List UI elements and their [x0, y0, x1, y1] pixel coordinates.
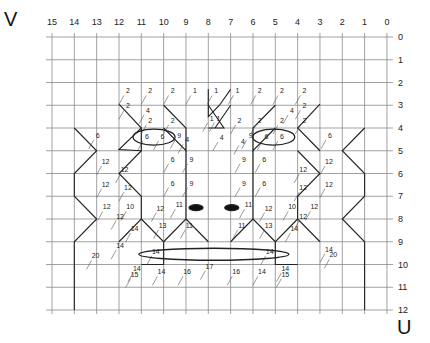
value-label: 6 [171, 156, 175, 163]
row-label: 7 [398, 191, 403, 201]
value-label: 12 [102, 181, 110, 188]
value-label: 2 [258, 117, 262, 124]
column-label: 7 [228, 17, 233, 27]
value-label: 9 [242, 180, 246, 187]
value-label: 9 [177, 132, 181, 139]
value-label: 12 [310, 203, 318, 210]
column-label: 5 [273, 17, 278, 27]
value-label: 12 [299, 166, 307, 173]
column-label: 14 [69, 17, 79, 27]
value-label: 9 [190, 156, 194, 163]
row-label: 4 [398, 123, 403, 133]
value-label: 6 [328, 132, 332, 139]
value-label: 17 [206, 263, 214, 270]
value-label: 1 [235, 87, 239, 94]
column-label: 4 [295, 17, 300, 27]
value-label: 12 [102, 158, 110, 165]
value-label: 12 [116, 213, 124, 220]
column-label: 9 [183, 17, 188, 27]
left-eye-ellipse [133, 129, 175, 145]
value-label: 20 [92, 252, 100, 259]
value-label: 14 [266, 248, 274, 255]
value-label: 2 [280, 87, 284, 94]
row-label: 3 [398, 100, 403, 110]
value-label: 2 [148, 117, 152, 124]
value-label: 1 [210, 115, 214, 122]
left-pupil [189, 205, 203, 211]
value-label: 10 [126, 203, 134, 210]
row-label: 9 [398, 237, 403, 247]
value-label: 14 [131, 225, 139, 232]
value-label: 12 [121, 166, 129, 173]
value-label: 6 [161, 133, 165, 140]
value-label: 2 [302, 117, 306, 124]
row-label: 8 [398, 214, 403, 224]
value-label: 2 [258, 87, 262, 94]
value-label: 4 [185, 136, 189, 143]
row-labels: 0123456789101112 [398, 32, 408, 315]
value-label: 12 [325, 181, 333, 188]
row-label: 0 [398, 32, 403, 42]
value-label: 9 [190, 180, 194, 187]
column-label: 2 [340, 17, 345, 27]
value-label: 11 [176, 201, 183, 208]
value-label: 6 [145, 133, 149, 140]
face-grid-diagram: 1514131211109876543210 0123456789101112 … [0, 0, 430, 343]
row-label: 1 [398, 55, 403, 65]
value-label: 13 [159, 222, 167, 229]
column-label: 10 [159, 17, 169, 27]
value-label: 10 [288, 203, 296, 210]
value-label: 14 [116, 242, 124, 249]
value-label: 12 [325, 158, 333, 165]
column-label: 6 [250, 17, 255, 27]
row-label: 12 [398, 305, 408, 315]
value-label: 2 [238, 117, 242, 124]
value-label: 12 [124, 184, 132, 191]
value-label: 12 [265, 205, 273, 212]
value-label: 2 [148, 87, 152, 94]
column-label: 13 [92, 17, 102, 27]
value-label: 14 [158, 268, 166, 275]
value-label: 11 [245, 201, 252, 208]
value-label: 2 [126, 87, 130, 94]
value-label: 9 [242, 156, 246, 163]
row-label: 6 [398, 169, 403, 179]
value-label: 4 [290, 107, 294, 114]
value-label: 15 [281, 271, 289, 278]
value-label: 12 [299, 213, 307, 220]
value-label: 1 [193, 87, 197, 94]
value-label: 2 [280, 117, 284, 124]
value-label: 6 [171, 180, 175, 187]
value-label: 1 [214, 87, 218, 94]
value-label: 12 [103, 203, 111, 210]
value-label: 14 [290, 225, 298, 232]
value-label: 6 [96, 132, 100, 139]
value-label: 14 [258, 268, 266, 275]
value-label: 11 [238, 222, 245, 229]
value-label: 6 [262, 180, 266, 187]
value-label: 13 [265, 222, 273, 229]
row-label: 11 [398, 282, 407, 292]
value-label: 11 [186, 222, 193, 229]
column-label: 0 [384, 17, 389, 27]
value-label: 20 [329, 251, 337, 258]
value-label: 6 [262, 156, 266, 163]
grid-lines [46, 33, 393, 314]
row-label: 10 [398, 260, 408, 270]
value-label: 4 [220, 134, 224, 141]
value-label: 2 [171, 117, 175, 124]
column-label: 15 [47, 17, 57, 27]
value-label: 16 [232, 268, 240, 275]
row-label: 5 [398, 146, 403, 156]
value-label: 2 [171, 87, 175, 94]
column-label: 11 [137, 17, 146, 27]
value-label: 4 [146, 107, 150, 114]
value-label: 1 [216, 115, 220, 122]
value-label: 12 [156, 205, 164, 212]
contour-strokes [74, 89, 364, 310]
column-labels: 1514131211109876543210 [47, 17, 389, 27]
value-label: 2 [302, 102, 306, 109]
value-label: 6 [264, 133, 268, 140]
value-label: 4 [241, 138, 245, 145]
column-label: 3 [317, 17, 322, 27]
